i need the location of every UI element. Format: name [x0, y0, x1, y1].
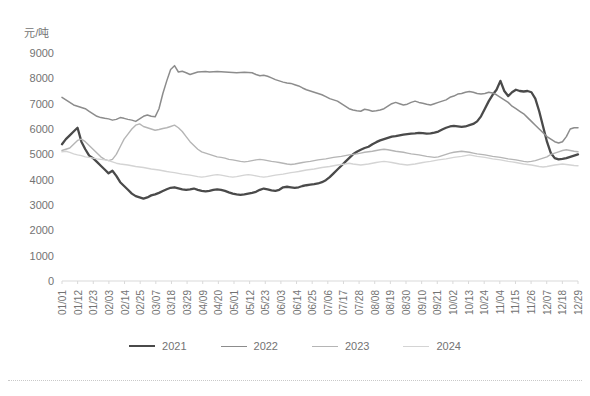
- series-line-2024: [62, 151, 578, 177]
- x-axis-tick-label: 10/13: [464, 290, 475, 315]
- y-axis-tick-label: 2000: [30, 224, 54, 236]
- x-axis-tick-label: 01/01: [57, 290, 68, 315]
- legend-label-2022: 2022: [254, 340, 278, 352]
- x-axis-tick-label: 11/04: [495, 290, 506, 315]
- x-axis-tick-label: 02/14: [120, 290, 131, 315]
- x-axis-tick-label: 01/12: [73, 290, 84, 315]
- chart-container: 元/吨 010002000300040005000600070008000900…: [0, 0, 590, 396]
- x-axis-tick-label: 02/25: [135, 290, 146, 315]
- footer-divider: [8, 380, 582, 381]
- legend-item-2023[interactable]: 2023: [312, 340, 369, 352]
- y-axis-tick-label: 6000: [30, 123, 54, 135]
- x-axis-tick-label: 07/28: [354, 290, 365, 315]
- x-axis-tick-label: 12/07: [542, 290, 553, 315]
- legend-swatch-2021: [129, 345, 155, 347]
- y-axis-tick-label: 8000: [30, 72, 54, 84]
- legend-item-2022[interactable]: 2022: [221, 340, 278, 352]
- x-axis-tick-label: 03/18: [166, 290, 177, 315]
- legend-label-2021: 2021: [162, 340, 186, 352]
- line-chart-plot: 0100020003000400050006000700080009000 01…: [0, 0, 590, 396]
- x-axis-tick-label: 02/03: [104, 290, 115, 315]
- y-axis-tick-label: 4000: [30, 174, 54, 186]
- legend-item-2024[interactable]: 2024: [403, 340, 460, 352]
- x-axis-tick-label: 09/10: [417, 290, 428, 315]
- legend-swatch-2024: [403, 346, 429, 347]
- x-axis-tick-label: 10/24: [479, 290, 490, 315]
- x-axis-tick-label: 05/01: [229, 290, 240, 315]
- y-axis-tick-label: 0: [48, 275, 54, 287]
- x-axis-tick-label: 06/14: [292, 290, 303, 315]
- x-axis-tick-label: 03/29: [182, 290, 193, 315]
- x-axis-tick-label: 06/25: [307, 290, 318, 315]
- x-axis-tick-label: 12/29: [573, 290, 584, 315]
- legend-label-2023: 2023: [345, 340, 369, 352]
- x-axis-tick-label: 10/02: [448, 290, 459, 315]
- series-line-2022: [62, 66, 578, 143]
- x-axis-tick-label: 07/17: [338, 290, 349, 315]
- y-axis-tick-label: 7000: [30, 98, 54, 110]
- x-axis-tick-label: 06/03: [276, 290, 287, 315]
- x-axis-tick-label: 04/09: [198, 290, 209, 315]
- y-axis-ticks: 0100020003000400050006000700080009000: [30, 47, 54, 287]
- series-lines: [62, 66, 578, 199]
- x-axis-ticks: 01/0101/1201/2302/0302/1402/2503/0703/18…: [57, 281, 584, 315]
- x-axis-tick-label: 08/30: [401, 290, 412, 315]
- x-axis-tick-label: 01/23: [88, 290, 99, 315]
- x-axis-tick-label: 12/18: [557, 290, 568, 315]
- legend-swatch-2023: [312, 346, 338, 347]
- legend-label-2024: 2024: [436, 340, 460, 352]
- x-axis-tick-label: 11/26: [526, 290, 537, 315]
- x-axis-tick-label: 05/23: [260, 290, 271, 315]
- series-line-2023: [62, 124, 578, 165]
- y-axis-tick-label: 1000: [30, 250, 54, 262]
- x-axis-tick-label: 08/08: [370, 290, 381, 315]
- legend-swatch-2022: [221, 346, 247, 347]
- series-line-2021: [62, 81, 578, 199]
- x-axis-tick-label: 09/21: [432, 290, 443, 315]
- y-axis-tick-label: 9000: [30, 47, 54, 59]
- chart-legend: 2021202220232024: [0, 340, 590, 352]
- x-axis-tick-label: 03/07: [151, 290, 162, 315]
- x-axis-tick-label: 11/15: [510, 290, 521, 315]
- x-axis-tick-label: 07/06: [323, 290, 334, 315]
- x-axis-tick-label: 08/19: [385, 290, 396, 315]
- y-axis-tick-label: 5000: [30, 148, 54, 160]
- legend-item-2021[interactable]: 2021: [129, 340, 186, 352]
- y-axis-tick-label: 3000: [30, 199, 54, 211]
- x-axis-tick-label: 05/12: [245, 290, 256, 315]
- x-axis-tick-label: 04/20: [213, 290, 224, 315]
